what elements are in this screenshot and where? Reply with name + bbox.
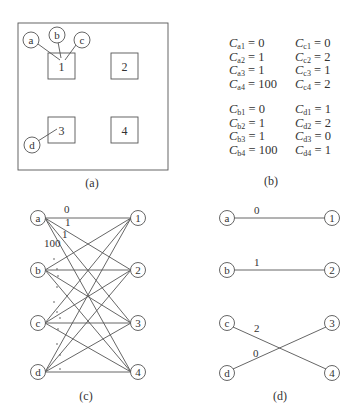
module-box-1: 1 [48,53,75,79]
svg-text:1: 1 [329,212,335,224]
cost-entry: Cc4 = 2 [295,78,330,92]
terminal-node-b: b [49,27,65,43]
terminal-node-a: a [23,32,39,48]
svg-text:4: 4 [329,367,335,379]
module-box-4: 4 [111,117,138,143]
svg-text:d: d [224,367,230,379]
cost-entry: Cb1 = 0 [229,103,277,117]
svg-text:2: 2 [329,264,335,276]
svg-text:4: 4 [122,124,128,138]
caption-d: (d) [273,389,287,403]
match-cost-c4: 2 [254,322,260,334]
match-left-node-d: d [220,366,235,381]
match-left-node-b: b [220,263,235,278]
match-right-node-1: 1 [325,211,340,226]
svg-text:3: 3 [329,317,335,329]
svg-text:2: 2 [135,264,141,276]
cost-entry: Cc2 = 2 [295,51,330,65]
ellipsis-dot [59,317,61,319]
svg-text:c: c [80,34,85,46]
panel-c: abcd1234 0 1 1 100 (c) [31,203,146,403]
cost-table-c: Cc1 = 0Cc2 = 2Cc3 = 1Cc4 = 2 [295,37,330,91]
left-node-d: d [31,365,46,380]
cost-entry: Cb2 = 1 [229,117,277,131]
caption-c: (c) [79,389,92,403]
ellipsis-dot [57,328,59,330]
right-node-1: 1 [131,211,146,226]
ellipsis-dot [59,354,61,356]
svg-text:d: d [29,139,35,151]
match-right-node-4: 4 [325,366,340,381]
edge-label-a1: 0 [64,203,70,215]
cost-table-d: Cd1 = 1Cd2 = 2Cd3 = 0Cd4 = 1 [295,103,331,157]
caption-a: (a) [85,176,98,190]
chip-outline [18,23,168,170]
edge-label-a2: 1 [65,216,71,228]
ellipsis-dot [56,311,58,313]
cost-entry: Cb3 = 1 [229,130,277,144]
cost-entry: Ca2 = 1 [229,51,277,65]
match-cost-d3: 0 [253,347,259,359]
ellipsis-dot [59,368,61,370]
svg-text:c: c [36,317,41,329]
edge-label-a4: 100 [44,237,61,249]
cost-table-b: Cb1 = 0Cb2 = 1Cb3 = 1Cb4 = 100 [229,103,277,157]
match-cost-b2: 1 [254,256,260,268]
svg-text:1: 1 [135,212,141,224]
ellipsis-dot [53,301,55,303]
svg-text:1: 1 [59,60,65,74]
svg-text:a: a [29,34,34,46]
left-node-a: a [31,211,46,226]
match-right-node-3: 3 [325,316,340,331]
right-node-3: 3 [131,316,146,331]
ellipsis-dot [53,258,55,260]
match-left-node-a: a [220,211,235,226]
caption-b: (b) [264,175,278,189]
svg-text:b: b [224,264,230,276]
panel-a: 1234 abcd (a) [18,23,168,190]
svg-text:a: a [225,212,230,224]
right-node-2: 2 [131,263,146,278]
terminal-node-d: d [24,137,40,153]
svg-text:d: d [35,366,41,378]
svg-text:b: b [35,264,41,276]
svg-text:a: a [36,212,41,224]
cost-entry: Cd2 = 2 [295,117,331,131]
match-cost-a1: 0 [254,204,260,216]
cost-entry: Cd3 = 0 [295,130,331,144]
match-right-node-2: 2 [325,263,340,278]
cost-table-a: Ca1 = 0Ca2 = 1Ca3 = 1Ca4 = 100 [229,37,277,91]
svg-text:4: 4 [135,366,141,378]
ellipsis-dot [56,268,58,270]
cost-entry: Cd4 = 1 [295,144,331,158]
panel-d: 0 1 2 0 abcd1234 (d) [220,204,340,403]
module-box-3: 3 [48,117,75,143]
terminal-node-c: c [74,32,90,48]
ellipsis-dot [56,343,58,345]
ellipsis-dot [56,286,58,288]
cost-entry: Cb4 = 100 [229,144,277,158]
ellipsis-dot [57,275,59,277]
module-box-2: 2 [111,53,138,79]
svg-text:2: 2 [122,60,128,74]
svg-text:3: 3 [59,124,65,138]
right-node-4: 4 [131,365,146,380]
svg-text:3: 3 [135,317,141,329]
cost-entry: Cc3 = 1 [295,64,330,78]
cost-entry: Ca1 = 0 [229,37,277,51]
svg-text:b: b [54,29,60,41]
left-node-c: c [31,316,46,331]
cost-entry: Cc1 = 0 [295,37,330,51]
cost-entry: Ca3 = 1 [229,64,277,78]
svg-text:c: c [225,317,230,329]
cost-entry: Ca4 = 100 [229,78,277,92]
left-node-b: b [31,263,46,278]
match-left-node-c: c [220,316,235,331]
cost-entry: Cd1 = 1 [295,103,331,117]
edge-label-a3: 1 [62,228,68,240]
